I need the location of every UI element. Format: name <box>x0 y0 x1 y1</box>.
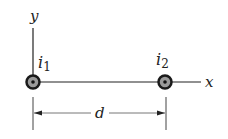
two-wire-diagram: y x i1 i2 d <box>0 0 228 139</box>
wire-1 <box>27 76 40 89</box>
arrowhead-right-icon <box>157 111 165 116</box>
separation-label: d <box>95 104 105 122</box>
x-axis-label: x <box>205 73 214 91</box>
y-axis-label: y <box>29 7 39 25</box>
wire-2-label: i2 <box>156 50 169 71</box>
wire-1-label: i1 <box>38 53 51 74</box>
arrowhead-left-icon <box>34 111 42 116</box>
separation-dimension: d <box>33 97 166 130</box>
wire-2 <box>159 76 172 89</box>
